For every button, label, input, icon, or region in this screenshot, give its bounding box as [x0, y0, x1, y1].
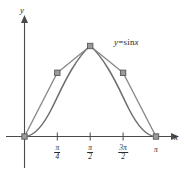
- curve-equation-function: sin: [123, 37, 134, 47]
- tick-label-pi-over-4: π 4: [54, 144, 60, 161]
- curve-equation-variable: x: [135, 37, 139, 47]
- tick-label-pi-over-2: π 2: [87, 144, 93, 161]
- y-axis-arrowhead: [21, 15, 28, 23]
- fraction-denominator: 2: [87, 153, 93, 161]
- fraction-denominator: 4: [54, 153, 60, 161]
- vertex-marker-three-pi-over-4: [120, 70, 125, 75]
- fraction-three-pi-over-2: 3π 2: [118, 144, 128, 161]
- vertex-marker-pi-over-2: [88, 43, 93, 48]
- y-axis-label: y: [20, 6, 24, 15]
- fraction-pi-over-2: π 2: [87, 144, 93, 161]
- vertex-marker-pi-over-4: [55, 70, 60, 75]
- fraction-denominator: 2: [118, 153, 128, 161]
- tick-label-pi: π: [154, 146, 158, 154]
- sine-curve-figure: y x y=sinx π 4 π 2 3π 2 π: [0, 0, 184, 175]
- vertex-marker-origin: [22, 134, 27, 139]
- curve-equation-label: y=sinx: [114, 38, 139, 47]
- tick-label-three-pi-over-2: 3π 2: [118, 144, 128, 161]
- vertex-marker-pi: [153, 134, 158, 139]
- sine-curve: [25, 46, 157, 137]
- fraction-pi-over-4: π 4: [54, 144, 60, 161]
- x-axis-label: x: [174, 133, 178, 142]
